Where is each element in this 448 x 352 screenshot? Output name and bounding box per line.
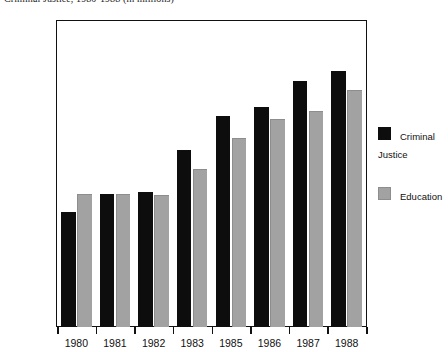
x-axis-tick — [289, 327, 291, 334]
x-axis-label: 1987 — [296, 337, 319, 349]
bar-1987-education — [309, 111, 324, 327]
x-axis-label: 1983 — [181, 337, 204, 349]
bar-1980-criminal-justice — [61, 212, 76, 327]
bar-1987-criminal-justice — [293, 81, 308, 327]
bar-1983-education — [193, 169, 208, 327]
bar-1980-education — [77, 194, 92, 327]
x-axis-tick — [173, 327, 175, 334]
bar-1982-education — [154, 195, 169, 327]
x-axis-tick — [366, 327, 368, 334]
x-axis-label: 1986 — [258, 337, 281, 349]
x-axis-label: 1985 — [219, 337, 242, 349]
bar-1988-criminal-justice — [331, 71, 346, 327]
bar-chart: Criminal Justice, 1980-1988 (in millions… — [0, 0, 448, 352]
x-axis-label: 1982 — [142, 337, 165, 349]
x-axis-tick — [96, 327, 98, 334]
x-axis-tick — [327, 327, 329, 334]
chart-legend: Criminal JusticeEducation — [378, 126, 448, 232]
x-axis-label: 1981 — [103, 337, 126, 349]
bar-1986-education — [270, 119, 285, 327]
x-axis-tick — [57, 327, 59, 334]
legend-item-criminal-justice: Criminal Justice — [378, 126, 448, 162]
bar-1985-criminal-justice — [216, 116, 231, 327]
bar-1983-criminal-justice — [177, 150, 192, 327]
x-axis-label: 1980 — [65, 337, 88, 349]
legend-item-education: Education — [378, 186, 448, 208]
x-axis-tick — [212, 327, 214, 334]
x-axis-tick — [134, 327, 136, 334]
bar-1981-education — [116, 194, 131, 327]
bar-1981-criminal-justice — [100, 194, 115, 327]
y-axis: 05000100001500020000 — [0, 0, 56, 352]
bar-1985-education — [232, 138, 247, 327]
bar-1986-criminal-justice — [254, 107, 269, 327]
bar-1988-education — [347, 90, 362, 327]
plot-area — [57, 21, 366, 327]
x-axis-label: 1988 — [335, 337, 358, 349]
gray-swatch-icon — [378, 187, 391, 200]
bar-1982-criminal-justice — [138, 192, 153, 327]
legend-item-label: Education — [400, 191, 442, 202]
x-axis-tick — [250, 327, 252, 334]
black-swatch-icon — [378, 127, 391, 140]
